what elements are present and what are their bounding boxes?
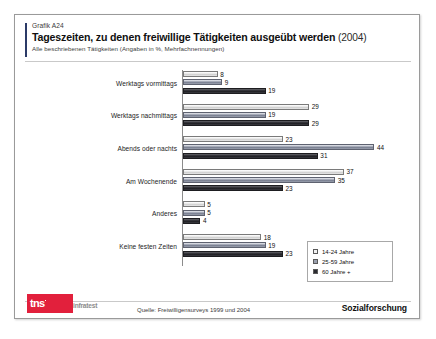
bar-2	[183, 218, 200, 224]
legend-label: 14-24 Jahre	[322, 249, 354, 255]
bar-0	[183, 104, 309, 110]
bar-group: Anderes554	[15, 201, 420, 228]
bar-value-label: 29	[312, 103, 319, 110]
chart-subtitle: Alle beschriebenen Tätigkeiten (Angaben …	[32, 45, 224, 52]
bar-value-label: 23	[286, 185, 293, 192]
bar-value-label: 19	[268, 111, 275, 118]
chart-card: Grafik A24 Tageszeiten, zu denen freiwil…	[14, 14, 420, 319]
bar-2	[183, 120, 309, 126]
bar-2	[183, 251, 283, 257]
bar-value-label: 18	[264, 234, 271, 241]
header-divider	[25, 61, 411, 62]
bar-0	[183, 234, 261, 240]
bar-1	[183, 112, 266, 118]
header-accent-bar	[25, 23, 27, 57]
bar-2	[183, 153, 318, 159]
legend-swatch-icon	[313, 249, 318, 254]
bar-0	[183, 71, 218, 77]
bar-0	[183, 136, 283, 142]
bar-value-label: 19	[268, 87, 275, 94]
chart-legend: 14-24 Jahre25-59 Jahre60 Jahre +	[307, 241, 393, 282]
bar-value-label: 4	[203, 217, 207, 224]
bar-value-label: 31	[320, 152, 327, 159]
bar-group: Am Wochenende373523	[15, 169, 420, 196]
bar-group: Abends oder nachts234431	[15, 136, 420, 163]
bar-value-label: 35	[338, 177, 345, 184]
category-label: Anderes	[152, 210, 177, 217]
bar-value-label: 19	[268, 242, 275, 249]
bar-value-label: 5	[207, 209, 211, 216]
chart-title-year: (2004)	[338, 32, 367, 43]
chart-title-text: Tageszeiten, zu denen freiwillige Tätigk…	[32, 31, 335, 43]
bar-1	[183, 79, 222, 85]
legend-label: 25-59 Jahre	[322, 259, 354, 265]
category-label: Am Wochenende	[126, 178, 177, 185]
page-title: Tageszeiten, zu denen freiwillige Tätigk…	[32, 31, 367, 43]
bar-value-label: 44	[377, 144, 384, 151]
logo-wordmark: tns	[30, 298, 44, 309]
bar-1	[183, 177, 335, 183]
category-label: Werktags vormittags	[116, 80, 177, 87]
legend-swatch-icon	[313, 259, 318, 264]
logo-dot-icon	[45, 300, 47, 302]
bar-value-label: 9	[225, 79, 229, 86]
category-label: Werktags nachmittags	[111, 112, 177, 119]
category-label: Keine festen Zeiten	[119, 243, 177, 250]
legend-label: 60 Jahre +	[322, 269, 351, 275]
bar-0	[183, 169, 344, 175]
graphic-number: Grafik A24	[32, 22, 64, 29]
legend-item: 14-24 Jahre	[313, 247, 387, 256]
bar-group: Werktags vormittags8919	[15, 71, 420, 98]
bar-value-label: 29	[312, 120, 319, 127]
tns-logo: tns	[27, 294, 73, 313]
legend-item: 25-59 Jahre	[313, 257, 387, 266]
bar-value-label: 8	[220, 71, 224, 78]
division-label: Sozialforschung	[342, 303, 407, 313]
bar-value-label: 23	[286, 250, 293, 257]
legend-swatch-icon	[313, 269, 318, 274]
bar-1	[183, 210, 205, 216]
logo-subbrand: infratest	[73, 302, 97, 309]
chart-plot-area: Werktags vormittags8919Werktags nachmitt…	[15, 65, 420, 270]
bar-1	[183, 144, 374, 150]
bar-value-label: 37	[346, 168, 353, 175]
bar-value-label: 5	[207, 201, 211, 208]
bar-2	[183, 88, 266, 94]
category-label: Abends oder nachts	[117, 145, 177, 152]
bar-1	[183, 242, 266, 248]
source-note: Quelle: Freiwilligensurveys 1999 und 200…	[137, 307, 250, 313]
legend-item: 60 Jahre +	[313, 267, 387, 276]
bar-2	[183, 185, 283, 191]
bar-group: Werktags nachmittags291929	[15, 104, 420, 131]
bar-0	[183, 201, 205, 207]
bar-value-label: 23	[286, 136, 293, 143]
